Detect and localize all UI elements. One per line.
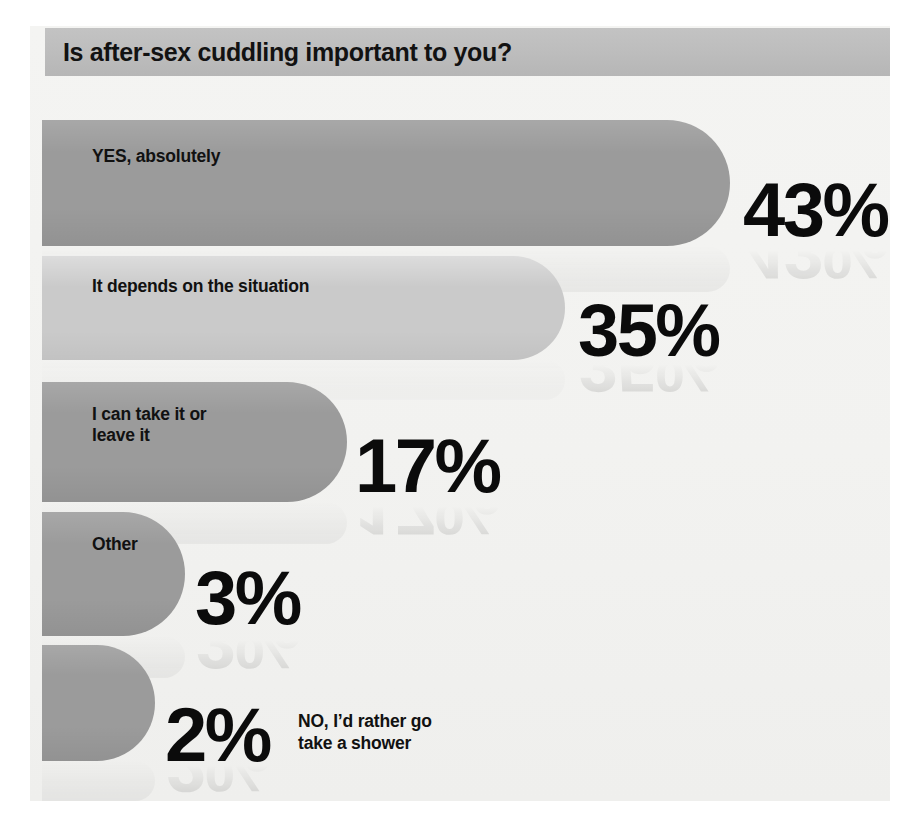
bar-no-rather-shower[interactable] [42,645,155,761]
bar-value-3: 3% [195,560,300,636]
bar-row: YES, absolutely 43% 43% [42,120,890,246]
bar-it-depends[interactable] [42,256,565,360]
bar-row: It depends on the situation 35% 35% [42,256,890,360]
bar-label: YES, absolutely [92,146,220,167]
bar-yes-absolutely[interactable] [42,120,730,246]
bar-label: Other [92,534,138,555]
bar-other[interactable] [42,512,185,636]
bar-row: 2% 2% NO, I’d rather go take a shower [42,645,890,761]
bar-value-2: 2% [165,697,270,773]
bar-label: I can take it or leave it [92,404,206,446]
bar-label: It depends on the situation [92,276,309,297]
bar-row: I can take it or leave it 17% 17% [42,382,890,502]
bar-row: Other 3% 3% [42,512,890,636]
page-title: Is after-sex cuddling important to you? [45,38,512,67]
poll-card: Is after-sex cuddling important to you? … [30,26,890,801]
poll-title-bar: Is after-sex cuddling important to you? [45,28,890,76]
bar-chart: YES, absolutely 43% 43% It depends on th… [42,120,890,800]
bar-value-35: 35% [578,294,719,368]
bar-value-43: 43% [743,172,888,248]
bar-value-17: 17% [355,428,500,504]
bar-label: NO, I’d rather go take a shower [298,711,432,755]
